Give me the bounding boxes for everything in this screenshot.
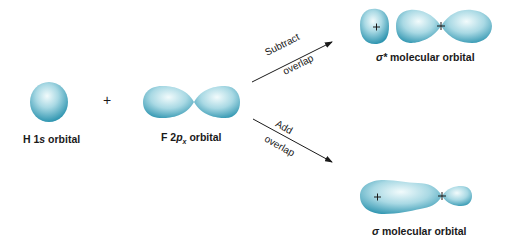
orbital-diagram (0, 0, 509, 245)
sigma-label: σ molecular orbital (372, 225, 467, 237)
plus-sign: + (103, 92, 111, 108)
h-1s-orbital (30, 82, 68, 122)
sigma-star-label: σ* molecular orbital (376, 51, 475, 63)
f-2px-orbital (143, 86, 240, 118)
f-2px-label: F 2px orbital (161, 131, 222, 145)
sigma-orbital (360, 180, 472, 214)
h-1s-label: H 1s orbital (23, 133, 80, 145)
sigma-star-orbital (360, 9, 492, 44)
